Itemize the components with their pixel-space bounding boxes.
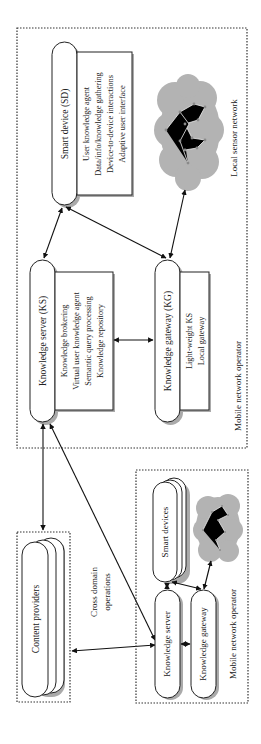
- smart-devices-label: Smart devices: [160, 506, 170, 557]
- cloud-network-icon: [154, 74, 224, 191]
- arrow-kg-sd: [66, 207, 166, 258]
- ks-function-4: Knowledge repository: [96, 303, 105, 378]
- smart-device-node: Smart device (SD) User knowledge agent D…: [52, 42, 134, 208]
- mobile-network-operator-label-top: Mobile network operator: [233, 341, 243, 431]
- knowledge-gateway-title: Knowledge gateway (KG): [163, 291, 174, 391]
- ks-function-3: Semantic query processing: [84, 296, 93, 385]
- arrow-remote-kg-sd: [172, 582, 201, 589]
- mobile-network-operator-label-bottom: Mobile network operator: [228, 589, 238, 679]
- sd-function-4: Adaptive user interface: [118, 85, 127, 163]
- kg-function-2: Local gateway: [197, 316, 206, 365]
- remote-knowledge-gateway-node: Knowledge gateway: [191, 590, 219, 700]
- architecture-diagram: Smart device (SD) User knowledge agent D…: [0, 0, 261, 744]
- arrow-kg-cloud: [170, 190, 185, 258]
- remote-knowledge-server-label: Knowledge server: [162, 611, 172, 677]
- content-providers-label: Content providers: [31, 585, 41, 654]
- cross-domain-label-line1: Cross domain: [89, 567, 99, 617]
- arrow-ks-sd: [44, 208, 62, 258]
- kg-function-1: Light-weight KS: [185, 313, 194, 369]
- knowledge-server-title: Knowledge server (KS): [38, 296, 49, 386]
- ks-function-1: Knowledge brokering: [60, 305, 69, 378]
- arrow-content-providers-remote-ks: [72, 645, 155, 651]
- cloud-network-icon-small: [193, 494, 243, 562]
- smart-devices-stack: Smart devices: [153, 478, 190, 584]
- knowledge-gateway-node: Knowledge gateway (KG) Light-weight KS L…: [155, 260, 211, 425]
- cross-domain-label-line2: operations: [102, 573, 112, 611]
- knowledge-server-node: Knowledge server (KS) Knowledge brokerin…: [30, 260, 115, 425]
- smart-device-title: Smart device (SD): [60, 89, 71, 160]
- sd-function-2: Data/info/knowledge gathering: [94, 72, 103, 175]
- remote-knowledge-server-node: Knowledge server: [155, 590, 183, 700]
- arrow-remote-kg-cloud: [204, 561, 211, 589]
- remote-knowledge-gateway-label: Knowledge gateway: [198, 607, 208, 681]
- local-sensor-network-label: Local sensor network: [229, 99, 239, 177]
- content-providers-stack: Content providers: [22, 538, 65, 697]
- ks-function-2: Virtual user knowledge agent: [72, 292, 81, 390]
- sd-function-1: User knowledge agent: [82, 86, 91, 161]
- sd-function-3: Device-to-device interactions: [106, 75, 115, 173]
